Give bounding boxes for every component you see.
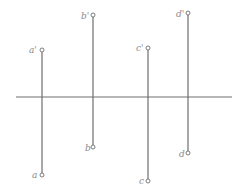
point-b-prime [91,13,95,17]
point-c-group: c' c [136,43,150,186]
label-c: c [139,176,144,186]
point-d [186,151,190,155]
point-b-group: b' b [81,11,95,153]
point-c-prime [146,46,150,50]
label-a: a [32,170,37,180]
projection-diagram: a' a b' b c' c d' d [0,0,246,195]
point-a-group: a' a [29,45,44,180]
label-b: b [85,143,91,153]
label-d: d [179,149,185,159]
point-d-group: d' d [176,9,190,159]
point-a-prime [40,48,44,52]
label-a-prime: a' [29,45,37,55]
label-b-prime: b' [81,11,89,21]
label-d-prime: d' [176,9,184,19]
point-b [91,145,95,149]
label-c-prime: c' [136,43,144,53]
point-d-prime [186,11,190,15]
point-c [146,179,150,183]
point-a [40,173,44,177]
